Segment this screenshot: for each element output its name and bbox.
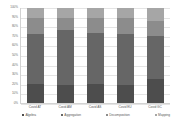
bar-segment[interactable] bbox=[27, 18, 44, 33]
bar-segment[interactable] bbox=[27, 34, 44, 84]
legend-item[interactable]: Mapping bbox=[155, 113, 170, 117]
x-axis-tick-label: Covid AM bbox=[51, 105, 79, 111]
y-axis-tick-label: 40% bbox=[12, 64, 18, 67]
y-axis-tick-label: 90% bbox=[12, 16, 18, 19]
bar-segment[interactable] bbox=[117, 18, 134, 33]
bar-segment[interactable] bbox=[87, 33, 104, 84]
legend-label: Mapping bbox=[158, 113, 170, 117]
bar-column[interactable] bbox=[27, 8, 44, 103]
bar-segment[interactable] bbox=[147, 8, 164, 21]
bar-stack bbox=[87, 8, 104, 103]
bar-segment[interactable] bbox=[57, 18, 74, 30]
stacked-bar-chart: 100%90%80%70%60%50%40%30%20%10%0% Covid … bbox=[0, 0, 172, 123]
bar-segment[interactable] bbox=[27, 84, 44, 103]
y-axis-tick-label: 100% bbox=[10, 6, 18, 9]
legend-swatch-icon bbox=[61, 114, 63, 116]
y-axis-tick-label: 20% bbox=[12, 83, 18, 86]
x-axis-category-labels: Covid ATCovid AMCovid ASCovid EUCovid GC bbox=[20, 105, 170, 111]
bar-segment[interactable] bbox=[57, 85, 74, 103]
y-axis-tick-label: 80% bbox=[12, 25, 18, 28]
legend-item[interactable]: Aggregation bbox=[61, 113, 81, 117]
legend-label: Decomposition bbox=[109, 113, 129, 117]
bar-column[interactable] bbox=[87, 8, 104, 103]
bar-segment[interactable] bbox=[87, 8, 104, 18]
x-axis-tick-label: Covid AS bbox=[81, 105, 109, 111]
bar-segment[interactable] bbox=[117, 34, 134, 85]
bar-column[interactable] bbox=[57, 8, 74, 103]
bar-group bbox=[21, 8, 170, 103]
x-axis-tick-label: Covid GC bbox=[141, 105, 169, 111]
legend-item[interactable]: Decomposition bbox=[106, 113, 130, 117]
legend-label: Algebra bbox=[25, 113, 36, 117]
bar-column[interactable] bbox=[147, 8, 164, 103]
bar-stack bbox=[147, 8, 164, 103]
y-axis-tick-label: 60% bbox=[12, 45, 18, 48]
bar-segment[interactable] bbox=[87, 18, 104, 32]
y-axis-tick-label: 0% bbox=[14, 102, 18, 105]
bar-segment[interactable] bbox=[57, 8, 74, 18]
y-axis: 100%90%80%70%60%50%40%30%20%10%0% bbox=[0, 6, 20, 104]
bar-segment[interactable] bbox=[117, 85, 134, 103]
plot-area bbox=[20, 8, 170, 104]
y-axis-tick-label: 10% bbox=[12, 93, 18, 96]
bar-segment[interactable] bbox=[87, 84, 104, 103]
bar-segment[interactable] bbox=[27, 8, 44, 18]
bar-segment[interactable] bbox=[117, 8, 134, 18]
legend-swatch-icon bbox=[155, 114, 157, 116]
bar-column[interactable] bbox=[117, 8, 134, 103]
y-axis-tick-label: 70% bbox=[12, 35, 18, 38]
x-axis-tick-label: Covid AT bbox=[21, 105, 49, 111]
y-axis-tick-label: 30% bbox=[12, 73, 18, 76]
legend: AlgebraAggregationDecompositionMapping bbox=[22, 112, 170, 118]
x-axis-tick-label: Covid EU bbox=[111, 105, 139, 111]
legend-label: Aggregation bbox=[64, 113, 81, 117]
bar-segment[interactable] bbox=[147, 79, 164, 103]
y-axis-tick-label: 50% bbox=[12, 54, 18, 57]
legend-swatch-icon bbox=[22, 114, 24, 116]
bar-segment[interactable] bbox=[57, 30, 74, 85]
bar-stack bbox=[27, 8, 44, 103]
legend-swatch-icon bbox=[106, 114, 108, 116]
bar-segment[interactable] bbox=[147, 36, 164, 79]
plot-wrapper: 100%90%80%70%60%50%40%30%20%10%0% Covid … bbox=[0, 0, 172, 123]
bar-stack bbox=[117, 8, 134, 103]
legend-item[interactable]: Algebra bbox=[22, 113, 36, 117]
bar-stack bbox=[57, 8, 74, 103]
bar-segment[interactable] bbox=[147, 21, 164, 36]
